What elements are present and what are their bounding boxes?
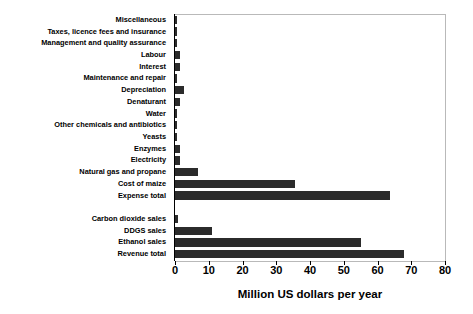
bar: [175, 74, 177, 82]
category-label: Electricity: [131, 156, 166, 163]
category-label: Enzymes: [134, 145, 166, 152]
bar-chart: MiscellaneousTaxes, licence fees and ins…: [0, 0, 473, 314]
category-label: Cost of maize: [118, 180, 166, 187]
bar: [175, 156, 180, 164]
bar: [175, 27, 177, 35]
x-axis-ticks: 01020304050607080: [175, 261, 445, 267]
category-label: Taxes, licence fees and insurance: [47, 28, 166, 35]
bar: [175, 133, 177, 141]
category-label: Water: [146, 110, 166, 117]
x-tick-label: 40: [304, 265, 316, 276]
category-label: Yeasts: [143, 133, 166, 140]
x-tick-label: 70: [405, 265, 417, 276]
category-label: Denaturant: [127, 98, 166, 105]
category-label: Depreciation: [121, 86, 166, 93]
bar: [175, 86, 184, 94]
category-label: Interest: [139, 63, 166, 70]
x-tick-label: 80: [439, 265, 451, 276]
category-label-column: MiscellaneousTaxes, licence fees and ins…: [0, 14, 170, 260]
bars-layer: [175, 14, 445, 260]
bar: [175, 250, 404, 258]
x-axis-title: Million US dollars per year: [175, 288, 445, 300]
bar: [175, 51, 180, 59]
category-label: Carbon dioxide sales: [92, 215, 166, 222]
category-label: DDGS sales: [124, 227, 166, 234]
category-label: Expense total: [118, 192, 166, 199]
x-tick-label: 50: [338, 265, 350, 276]
bar: [175, 109, 177, 117]
bar: [175, 98, 180, 106]
category-label: Ethanol sales: [118, 238, 166, 245]
category-label: Miscellaneous: [115, 16, 166, 23]
bar: [175, 145, 180, 153]
bar: [175, 180, 295, 188]
x-tick-label: 60: [371, 265, 383, 276]
category-label: Natural gas and propane: [79, 168, 166, 175]
x-tick-label: 0: [172, 265, 178, 276]
bar: [175, 16, 177, 24]
category-label: Revenue total: [118, 250, 166, 257]
x-tick-label: 20: [236, 265, 248, 276]
bar: [175, 63, 180, 71]
bar: [175, 121, 177, 129]
category-label: Management and quality assurance: [41, 39, 166, 46]
category-label: Labour: [141, 51, 166, 58]
bar: [175, 227, 212, 235]
bar: [175, 168, 198, 176]
x-tick-label: 10: [203, 265, 215, 276]
bar: [175, 238, 361, 246]
bar: [175, 191, 390, 199]
category-label: Other chemicals and antibiotics: [54, 121, 166, 128]
x-tick-label: 30: [270, 265, 282, 276]
bar: [175, 39, 177, 47]
category-label: Maintenance and repair: [83, 74, 166, 81]
bar: [175, 215, 178, 223]
